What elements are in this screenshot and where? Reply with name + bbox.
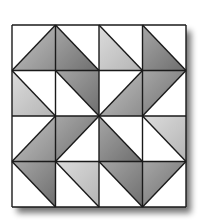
quilt-diagram (0, 0, 198, 222)
quilt-block-graphic (0, 0, 198, 222)
